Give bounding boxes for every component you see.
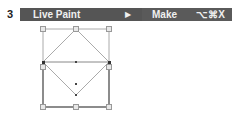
anchor-point-icon xyxy=(42,61,45,64)
center-point-icon xyxy=(75,83,77,85)
center-point-icon xyxy=(75,61,77,63)
live-paint-diagram xyxy=(0,0,243,117)
bounding-box xyxy=(43,29,109,62)
anchor-point-icon xyxy=(108,61,111,64)
anchor-point-icon xyxy=(75,94,77,96)
selection-handles[interactable] xyxy=(41,27,112,110)
